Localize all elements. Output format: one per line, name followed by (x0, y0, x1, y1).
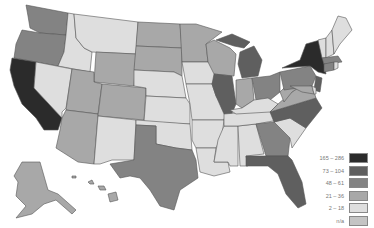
legend-swatch (349, 216, 368, 226)
state-ME (332, 16, 352, 54)
state-HI (72, 176, 118, 202)
legend-label: 21 – 36 (326, 193, 344, 199)
legend-item: n/a (296, 215, 368, 228)
legend-label: 48 – 61 (326, 180, 344, 186)
legend-swatch (349, 153, 368, 163)
legend-item: 48 – 61 (296, 177, 368, 190)
legend-item: 2 – 18 (296, 202, 368, 215)
state-CT (324, 62, 334, 72)
legend-swatch (349, 191, 368, 201)
legend-label: 73 – 104 (323, 168, 344, 174)
state-AZ (56, 110, 98, 164)
legend-label: 165 – 286 (320, 155, 344, 161)
legend-swatch (349, 203, 368, 213)
state-WA (26, 5, 68, 35)
state-RI (334, 62, 338, 70)
state-NM (94, 116, 136, 164)
legend-item: 73 – 104 (296, 165, 368, 178)
legend-swatch (349, 166, 368, 176)
legend-item: 165 – 286 (296, 152, 368, 165)
state-AK (14, 162, 76, 218)
legend-label: n/a (336, 218, 344, 224)
state-CO (98, 84, 146, 120)
legend-swatch (349, 178, 368, 188)
legend-item: 21 – 36 (296, 190, 368, 203)
state-KS (144, 96, 190, 124)
state-ND (136, 22, 182, 48)
legend: 165 – 286 73 – 104 48 – 61 21 – 36 2 – 1… (296, 152, 368, 227)
state-WY (94, 52, 136, 86)
legend-label: 2 – 18 (329, 205, 344, 211)
